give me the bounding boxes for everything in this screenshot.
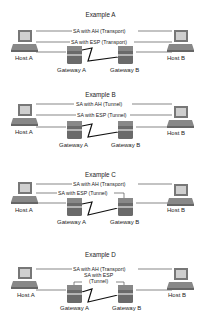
host-b-computer-icon — [167, 184, 194, 206]
sa-esp-label: SA with ESP (Tunnel) — [58, 190, 108, 196]
gateway-a-router-icon — [64, 46, 85, 64]
gateway-b-label: Gateway B — [110, 219, 139, 225]
gateway-b-router-icon — [115, 198, 136, 216]
sa-esp-mode-label: (Tunnel) — [89, 278, 108, 284]
host-a-computer-icon — [11, 267, 38, 289]
gateway-a-label: Gateway A — [60, 305, 89, 311]
host-b-computer-icon — [167, 106, 194, 128]
gateway-a-label: Gateway A — [57, 67, 86, 73]
gateway-b-router-icon — [115, 46, 136, 64]
gateway-b-router-icon — [115, 121, 136, 139]
host-a-label: Host A — [15, 129, 33, 135]
sa-ah-label: SA with AH (Transport) — [73, 181, 126, 187]
gateway-b-label: Gateway B — [112, 305, 141, 311]
host-a-label: Host A — [15, 207, 33, 213]
host-b-label: Host B — [167, 130, 185, 136]
example-c-panel: Example C — [0, 160, 201, 240]
gateway-b-label: Gateway B — [111, 142, 140, 148]
example-d-panel: Example D — [0, 240, 201, 326]
gateway-a-router-icon — [64, 198, 85, 216]
host-a-computer-icon — [11, 182, 38, 204]
gateway-a-router-icon — [64, 121, 85, 139]
example-b-panel: Example B — [0, 80, 201, 160]
gateway-a-router-icon — [64, 285, 85, 303]
host-b-label: Host B — [167, 207, 185, 213]
host-b-label: Host B — [167, 55, 185, 61]
host-a-label: Host A — [17, 292, 35, 298]
gateway-a-label: Gateway A — [57, 219, 86, 225]
host-b-label: Host B — [168, 292, 186, 298]
example-b-diagram — [0, 80, 201, 160]
sa-ah-label: SA with AH (Tunnel) — [76, 101, 122, 107]
host-b-computer-icon — [167, 30, 194, 52]
host-b-computer-icon — [167, 268, 194, 290]
host-a-computer-icon — [11, 30, 38, 52]
gateway-b-router-icon — [115, 285, 136, 303]
sa-ah-label: SA with AH (Transport) — [73, 28, 126, 34]
example-c-diagram — [0, 160, 201, 240]
example-a-panel: Example A — [0, 0, 201, 80]
gateway-b-label: Gateway B — [110, 67, 139, 73]
gateway-a-label: Gateway A — [59, 142, 88, 148]
host-a-computer-icon — [11, 104, 38, 126]
sa-esp-label: SA with ESP (Tunnel) — [77, 112, 127, 118]
host-a-label: Host A — [15, 55, 33, 61]
sa-esp-label: SA with ESP (Transport) — [71, 39, 127, 45]
